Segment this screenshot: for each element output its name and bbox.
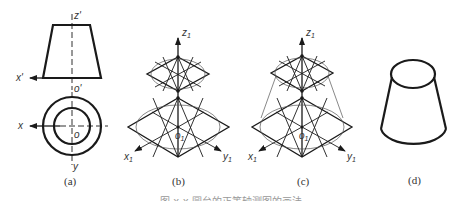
o1-label: o1 <box>299 130 309 142</box>
z-prime-label: z' <box>73 10 82 21</box>
y1-label: y1 <box>346 151 356 163</box>
vertex-dot <box>300 54 304 58</box>
o1-label: o1 <box>175 130 185 142</box>
panel-d-finished-frustum: (d) <box>381 60 446 187</box>
z1-label: z1 <box>181 27 191 39</box>
panel-c-tangents: z1 o1 x1 y1 (c) <box>247 27 356 188</box>
x1-axis <box>135 127 178 151</box>
vertex-dot <box>176 89 180 93</box>
y-label-top: y <box>72 161 79 172</box>
x1-label: x1 <box>247 151 257 163</box>
top-face-ellipse <box>391 60 435 88</box>
bottom-visible-arc <box>381 129 446 144</box>
panel-b-label: (b) <box>172 175 185 188</box>
left-silhouette <box>381 77 392 129</box>
frustum-isometric-figure: z' x' o' x o y (a) z1 <box>0 0 463 201</box>
construction-line <box>302 112 328 127</box>
x1-axis <box>259 127 302 151</box>
o-label-top: o <box>74 129 80 140</box>
panel-c-label: (c) <box>297 175 310 188</box>
panel-d-label: (d) <box>408 174 421 187</box>
panel-b-construction: z1 o1 x1 y1 (b) <box>123 27 232 188</box>
o-prime-label: o' <box>74 83 83 94</box>
construction-line <box>152 112 178 127</box>
center-dot <box>177 126 180 129</box>
x1-label: x1 <box>123 151 133 163</box>
vertex-dot <box>176 96 180 100</box>
x-prime-label: x' <box>15 72 24 83</box>
vertex-dot <box>300 89 304 93</box>
center-dot <box>301 126 304 129</box>
vertex-dot <box>300 96 304 100</box>
left-tangent-line <box>261 76 276 118</box>
vertex-dot <box>176 55 180 59</box>
right-silhouette <box>434 77 446 129</box>
panel-a-orthographic-views: z' x' o' x o y (a) <box>15 10 108 188</box>
right-tangent-line <box>328 76 343 118</box>
construction-line <box>178 112 204 127</box>
x-label-top: x <box>17 120 24 131</box>
construction-line <box>276 112 302 127</box>
panel-a-label: (a) <box>64 175 77 188</box>
figure-caption: 图 x-x 圆台的正等轴测图的画法 <box>160 195 302 201</box>
y1-label: y1 <box>222 151 232 163</box>
z1-label: z1 <box>305 27 315 39</box>
